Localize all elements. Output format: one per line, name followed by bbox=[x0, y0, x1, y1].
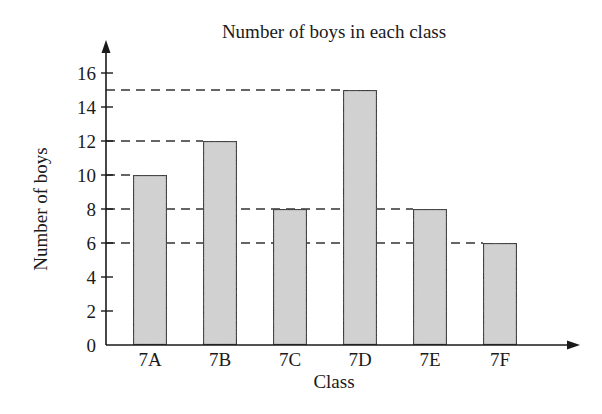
y-tick-label: 0 bbox=[87, 335, 97, 356]
x-axis-label: Class bbox=[313, 371, 354, 392]
y-axis: 0246810121416 bbox=[77, 40, 113, 356]
y-tick-label: 8 bbox=[87, 199, 97, 220]
bar-7a bbox=[133, 175, 167, 345]
x-tick-label: 7D bbox=[348, 349, 371, 370]
x-tick-label: 7E bbox=[419, 349, 440, 370]
y-tick-label: 12 bbox=[77, 131, 96, 152]
y-tick-label: 4 bbox=[87, 267, 97, 288]
x-tick-labels: 7A7B7C7D7E7F bbox=[138, 349, 510, 370]
bar-7f bbox=[483, 243, 517, 345]
chart-title: Number of boys in each class bbox=[222, 21, 446, 42]
y-tick-label: 16 bbox=[77, 63, 96, 84]
y-tick-label: 6 bbox=[87, 233, 97, 254]
x-axis: 7A7B7C7D7E7F bbox=[106, 341, 580, 371]
bar-chart: Number of boys in each class 02468101214… bbox=[0, 0, 602, 414]
bar-7b bbox=[203, 141, 237, 345]
x-tick-label: 7A bbox=[138, 349, 162, 370]
y-tick-label: 10 bbox=[77, 165, 96, 186]
y-axis-label: Number of boys bbox=[30, 147, 51, 270]
x-tick-label: 7B bbox=[209, 349, 231, 370]
x-axis-arrow-icon bbox=[567, 341, 580, 350]
y-ticks: 0246810121416 bbox=[77, 63, 113, 356]
bar-7c bbox=[273, 209, 307, 345]
x-tick-label: 7C bbox=[279, 349, 301, 370]
bars bbox=[133, 90, 517, 345]
x-tick-label: 7F bbox=[490, 349, 510, 370]
bar-7d bbox=[343, 90, 377, 345]
y-axis-arrow-icon bbox=[102, 40, 111, 53]
y-tick-label: 2 bbox=[87, 301, 97, 322]
y-tick-label: 14 bbox=[77, 97, 97, 118]
bar-7e bbox=[413, 209, 447, 345]
